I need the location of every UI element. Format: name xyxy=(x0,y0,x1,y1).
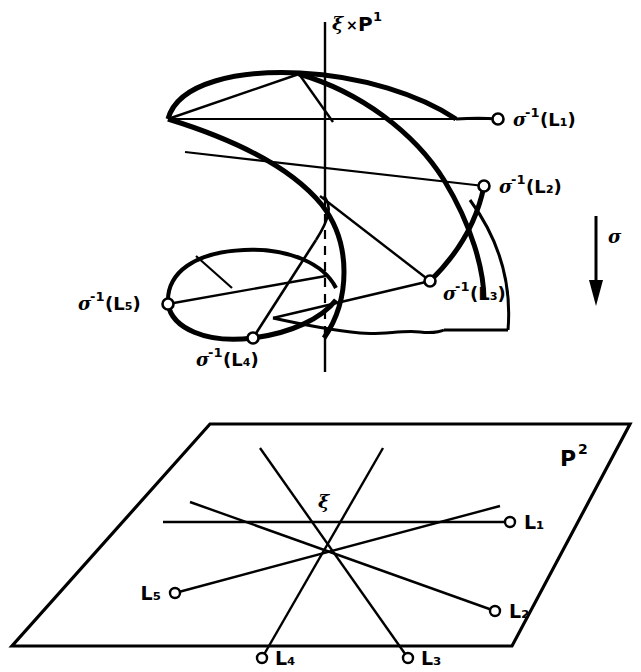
upper-diagram: ξ × P 1 σ -1 (L₁) σ -1 (L₂) σ -1 (L₃) σ xyxy=(78,9,576,372)
marker-sigma-inv-L3 xyxy=(425,276,436,287)
marker-L5 xyxy=(170,588,180,598)
lower-diagram: ξ L₁ L₂ L₃ L₄ L₅ P 2 xyxy=(12,424,630,669)
math-figure: ξ × P 1 σ -1 (L₁) σ -1 (L₂) σ -1 (L₃) σ xyxy=(0,0,641,672)
helicoid-front-descending-edge xyxy=(168,119,344,338)
helicoid-spiral-edge-right xyxy=(299,74,484,300)
ruling-upper-a xyxy=(168,74,299,119)
plane-label-exponent: 2 xyxy=(578,441,588,457)
label-L2-arg: (L₂) xyxy=(526,176,562,197)
marker-sigma-inv-L4 xyxy=(248,333,259,344)
lobe-upper-arc xyxy=(168,250,336,304)
plane-label-L1: L₁ xyxy=(524,511,544,533)
projection-map-sigma: σ xyxy=(589,216,622,306)
lobe-ruling-b xyxy=(196,256,232,288)
axis-label-times: × xyxy=(346,17,358,33)
marker-sigma-inv-L1 xyxy=(493,114,504,125)
sigma-arrow-label: σ xyxy=(608,226,622,247)
label-L5-exponent: -1 xyxy=(90,289,104,304)
plane-line-L5 xyxy=(175,506,500,593)
label-sigma-inv-L2: σ -1 (L₂) xyxy=(499,172,562,197)
label-L5-arg: (L₅) xyxy=(105,293,141,314)
center-point-label-xi: ξ xyxy=(318,490,331,512)
figure-canvas: ξ × P 1 σ -1 (L₁) σ -1 (L₂) σ -1 (L₃) σ xyxy=(0,0,641,672)
marker-sigma-inv-L5 xyxy=(163,299,174,310)
label-L4-arg: (L₄) xyxy=(223,349,259,370)
label-sigma-inv-L3: σ -1 (L₃) xyxy=(443,279,506,304)
plane-label-L3: L₃ xyxy=(421,647,441,669)
ruling-lower-sheet xyxy=(273,281,430,318)
label-sigma-inv-L5: σ -1 (L₅) xyxy=(78,289,141,314)
ruling-L3 xyxy=(320,196,430,281)
label-L3-arg: (L₃) xyxy=(470,283,506,304)
axis-label-xi: ξ xyxy=(332,12,345,34)
label-sigma-inv-L1: σ -1 (L₁) xyxy=(513,105,576,130)
label-L2-exponent: -1 xyxy=(511,172,525,187)
marker-L3 xyxy=(403,653,413,663)
sigma-arrow-head xyxy=(589,280,603,306)
marker-L4 xyxy=(257,653,267,663)
label-L1-arg: (L₁) xyxy=(540,109,576,130)
label-L4-exponent: -1 xyxy=(208,345,222,360)
lobe-ruling-a xyxy=(168,276,326,304)
marker-L1 xyxy=(505,517,515,527)
plane-line-L3 xyxy=(260,448,408,658)
plane-label-p: P xyxy=(560,446,576,471)
marker-L2 xyxy=(490,606,500,616)
label-sigma-inv-L4: σ -1 (L₄) xyxy=(196,345,259,370)
plane-label-L4: L₄ xyxy=(275,647,295,669)
axis-label-exponent: 1 xyxy=(373,9,382,24)
axis-label-p: P xyxy=(358,12,373,36)
plane-label-L5: L₅ xyxy=(141,582,161,604)
label-L1-exponent: -1 xyxy=(525,105,539,120)
marker-sigma-inv-L2 xyxy=(479,181,490,192)
plane-label-L2: L₂ xyxy=(509,600,529,622)
label-L3-exponent: -1 xyxy=(455,279,469,294)
